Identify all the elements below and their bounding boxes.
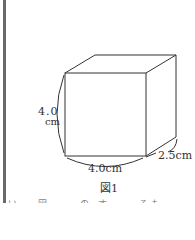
- figure-caption: 図1: [100, 183, 118, 194]
- top-face: [65, 55, 176, 73]
- height-unit-label: cm: [45, 117, 60, 127]
- front-face: [65, 73, 146, 156]
- depth-label: 2.5cm: [158, 150, 192, 161]
- width-label: 4.0cm: [88, 163, 122, 174]
- cutoff-text-line: い。 図…… の す…… るもの…… とす……: [8, 197, 193, 203]
